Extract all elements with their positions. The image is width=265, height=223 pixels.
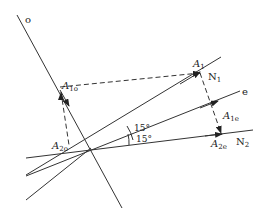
diagram-canvas: o A1o A1 N1 e A1e A2o A2e N2 15° 15° <box>0 0 265 223</box>
label-a1o: A1o <box>61 80 78 93</box>
e-axis-line-visible <box>26 91 240 176</box>
label-n1: N1 <box>208 71 221 84</box>
label-angle-upper: 15° <box>134 123 150 133</box>
label-angle-lower: 15° <box>136 134 152 144</box>
vector-diagram: o A1o A1 N1 e A1e A2o A2e N2 15° 15° <box>0 0 265 223</box>
label-o: o <box>25 14 31 25</box>
label-n2: N2 <box>236 136 249 149</box>
o-axis-line <box>17 15 122 208</box>
label-a1: A1 <box>192 58 205 71</box>
a2e-vector-arrow <box>205 134 222 136</box>
label-a1e: A1e <box>222 110 239 123</box>
label-e: e <box>242 86 248 97</box>
angle-arc-upper <box>127 126 133 140</box>
a1e-vector-arrow <box>200 101 218 108</box>
dashed-a1o-a1 <box>60 73 200 87</box>
label-a2o: A2o <box>51 140 68 153</box>
label-a2e: A2e <box>210 138 227 151</box>
n1-axis-line <box>26 57 221 175</box>
